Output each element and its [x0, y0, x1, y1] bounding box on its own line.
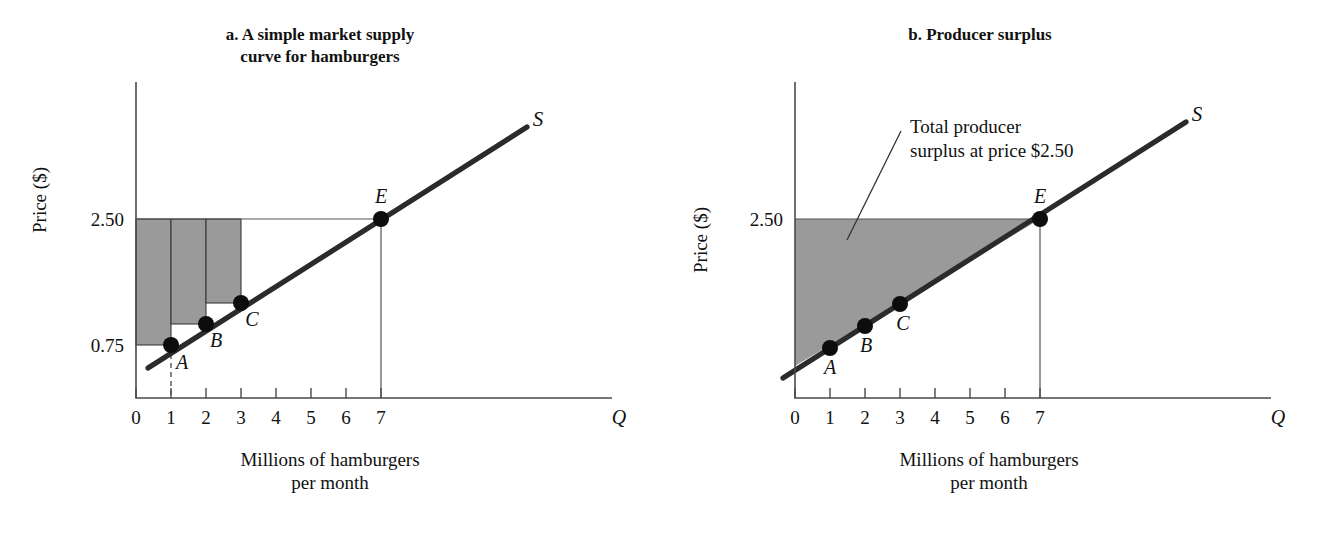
panel-a-point-e [373, 211, 389, 227]
panel-a-xtick-6: 6 [341, 407, 351, 428]
panel-a-x-axis-title-line1: Millions of hamburgers [240, 449, 419, 470]
panel-b-point-b [857, 318, 873, 334]
figure-root: a. A simple market supply curve for hamb… [0, 0, 1321, 533]
panel-b-x-axis-variable: Q [1271, 406, 1286, 428]
panel-a-x-axis-variable: Q [612, 406, 627, 428]
panel-b-xtick-0: 0 [790, 407, 800, 428]
panel-b-xtick-6: 6 [1000, 407, 1010, 428]
panel-a-x-tick-labels: 0 1 2 3 4 5 6 7 [131, 407, 386, 428]
panel-b-point-c [892, 296, 908, 312]
panel-a-step-bars [136, 219, 241, 345]
step-bar-3 [206, 219, 241, 303]
panel-b-point-e [1032, 211, 1048, 227]
panel-a-xtick-1: 1 [166, 407, 176, 428]
panel-b-xtick-2: 2 [860, 407, 870, 428]
step-bar-2 [171, 219, 206, 324]
panel-b-label-e: E [1033, 185, 1046, 207]
panel-b-label-c: C [896, 312, 910, 334]
panel-b-xtick-4: 4 [930, 407, 940, 428]
panel-b-supply-label: S [1192, 102, 1203, 126]
panel-a-ytick-250: 2.50 [91, 209, 124, 230]
panel-a-label-a: A [174, 351, 189, 373]
panel-a-xtick-4: 4 [271, 407, 281, 428]
panel-b-label-b: B [860, 334, 872, 356]
panel-b-y-axis-title: Price ($) [690, 207, 712, 273]
panel-a-title-line1: a. A simple market supply [226, 25, 415, 44]
panel-a-xtick-2: 2 [201, 407, 211, 428]
panel-a-label-e: E [374, 185, 387, 207]
panel-b-title-line1: b. Producer surplus [908, 25, 1052, 44]
panel-a-x-axis-title-line2: per month [291, 472, 369, 493]
panel-b-ytick-250: 2.50 [750, 209, 783, 230]
step-bar-1 [136, 219, 171, 345]
panel-a-xtick-3: 3 [236, 407, 246, 428]
panel-b-callout-line1: Total producer [910, 116, 1022, 137]
panel-b-label-a: A [822, 356, 837, 378]
panel-a-ytick-075: 0.75 [91, 335, 124, 356]
panel-a-supply-label: S [533, 107, 544, 131]
panel-a-xtick-7: 7 [376, 407, 386, 428]
panel-a-xtick-0: 0 [131, 407, 141, 428]
panel-a-x-ticks [136, 388, 381, 398]
panel-b-point-a [822, 340, 838, 356]
panel-a: a. A simple market supply curve for hamb… [29, 25, 627, 493]
panel-b-xtick-5: 5 [965, 407, 975, 428]
panel-b-xtick-1: 1 [825, 407, 835, 428]
panel-b-x-axis-title-line1: Millions of hamburgers [899, 449, 1078, 470]
panel-a-label-b: B [210, 329, 222, 351]
panel-b-x-ticks [795, 388, 1040, 398]
panel-b-x-tick-labels: 0 1 2 3 4 5 6 7 [790, 407, 1045, 428]
panel-a-title-line2: curve for hamburgers [240, 47, 400, 66]
panel-b-xtick-3: 3 [895, 407, 905, 428]
panel-b-x-axis-title-line2: per month [950, 472, 1028, 493]
panel-b-callout-line2: surplus at price $2.50 [910, 140, 1074, 161]
panel-a-xtick-5: 5 [306, 407, 316, 428]
panel-a-label-c: C [245, 308, 259, 330]
panel-b-xtick-7: 7 [1035, 407, 1045, 428]
panel-b: b. Producer surplus S [690, 25, 1286, 493]
panel-a-y-axis-title: Price ($) [29, 167, 51, 233]
economics-figure-svg: a. A simple market supply curve for hamb… [0, 0, 1321, 533]
